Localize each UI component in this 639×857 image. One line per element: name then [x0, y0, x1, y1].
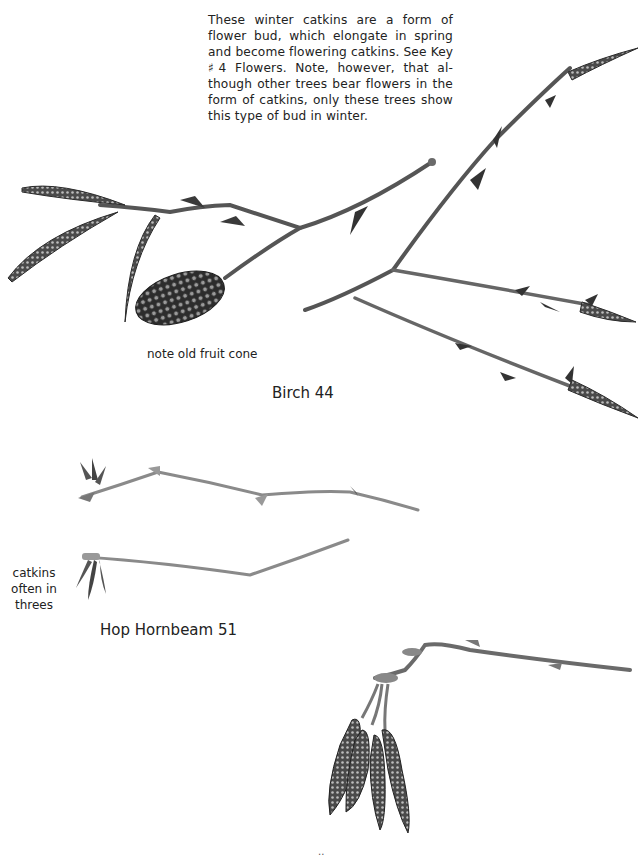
- intro-line: though other trees bear flowers in the: [208, 76, 453, 92]
- birch-species-label: Birch 44: [272, 384, 334, 402]
- intro-paragraph: These winter catkins are a form of flowe…: [208, 12, 453, 124]
- intro-line: ♯4 Flowers. Note, however, that al-: [208, 60, 453, 76]
- intro-line: flower bud, which elongate in spring: [208, 28, 453, 44]
- note-line: often in: [4, 581, 64, 597]
- birch-catkin: [8, 212, 118, 282]
- birch-twig-with-cone: [8, 158, 436, 335]
- fruit-cone-note: note old fruit cone: [147, 347, 258, 361]
- intro-line: this type of bud in winter.: [208, 108, 453, 124]
- intro-line: These winter catkins are a form of: [208, 12, 453, 28]
- hop-hornbeam-twig-lower: [76, 540, 348, 600]
- birch-catkin: [22, 186, 125, 205]
- birch-fruit-cone: [129, 261, 231, 335]
- note-line: catkins: [4, 565, 64, 581]
- catkins-in-threes-note: catkins often in threes: [4, 565, 64, 613]
- intro-line: form of catkins, only these trees show: [208, 92, 453, 108]
- hanging-catkins-twig: [329, 640, 630, 833]
- hop-hornbeam-twig-upper: [78, 458, 418, 510]
- page-number-cropped: ..: [318, 846, 324, 857]
- hop-hornbeam-species-label: Hop Hornbeam 51: [100, 621, 237, 639]
- note-line: threes: [4, 597, 64, 613]
- intro-line: and become flowering catkins. See Key: [208, 44, 453, 60]
